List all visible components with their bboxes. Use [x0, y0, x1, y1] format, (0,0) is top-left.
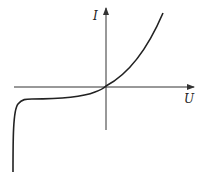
y-axis-label: I [92, 9, 98, 23]
x-axis-label: U [184, 92, 195, 106]
iv-diagram: I U [0, 0, 202, 180]
iv-curve [13, 13, 163, 172]
